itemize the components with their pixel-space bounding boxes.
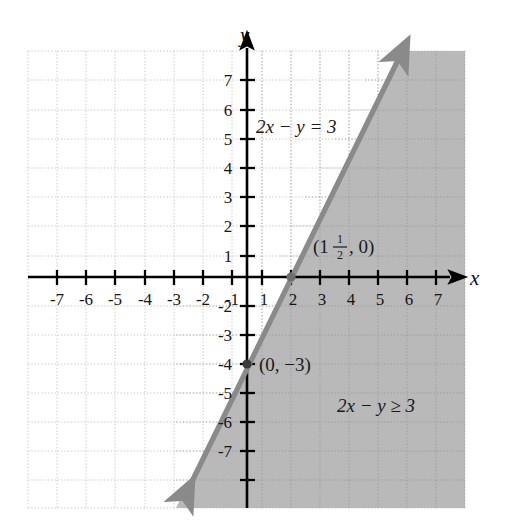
y-tick-label: -6 xyxy=(218,413,232,432)
y-tick-label: -3 xyxy=(218,326,232,345)
x-tick-label: -6 xyxy=(79,290,93,309)
y-tick-label: 6 xyxy=(224,101,233,120)
x-intercept-fraction-denominator: 2 xyxy=(337,248,343,262)
x-tick-label: 4 xyxy=(347,290,356,309)
inequality-label: 2x − y ≥ 3 xyxy=(337,395,415,416)
equation-label: 2x − y = 3 xyxy=(256,116,337,137)
x-tick-label: -7 xyxy=(50,290,65,309)
x-tick-label: -4 xyxy=(138,290,153,309)
x-tick-label: -3 xyxy=(167,290,181,309)
y-tick-label: 5 xyxy=(224,130,233,149)
x-tick-label: 6 xyxy=(405,290,414,309)
graph-figure: -7 -6 -5 -4 -3 -2 -1 1 2 3 4 5 6 7 7 6 5… xyxy=(0,0,508,526)
y-tick-label: 3 xyxy=(224,188,233,207)
x-tick-label: -5 xyxy=(108,290,122,309)
x-tick-label: 1 xyxy=(260,290,269,309)
x-axis-label: x xyxy=(469,266,480,290)
y-tick-label: -4 xyxy=(218,355,233,374)
y-tick-label: 4 xyxy=(224,159,233,178)
equation-text: 2x − y = 3 xyxy=(256,116,337,137)
point-y-intercept xyxy=(242,359,251,368)
y-intercept-label: (0, −3) xyxy=(259,354,311,376)
y-tick-label: 1 xyxy=(224,247,233,266)
x-tick-label: 7 xyxy=(434,290,443,309)
x-tick-label: 2 xyxy=(289,290,298,309)
y-tick-label: 7 xyxy=(224,71,233,90)
x-tick-label: 3 xyxy=(318,290,327,309)
x-tick-label: -2 xyxy=(196,290,210,309)
y-tick-label: -5 xyxy=(218,384,232,403)
y-tick-label: 2 xyxy=(224,217,233,236)
y-tick-label: -7 xyxy=(218,442,233,461)
x-intercept-fraction-numerator: 1 xyxy=(337,232,343,246)
y-tick-label: -2 xyxy=(218,297,232,316)
y-axis-label: y xyxy=(238,23,250,47)
x-intercept-close: , 0) xyxy=(349,236,374,258)
inequality-text: 2x − y ≥ 3 xyxy=(337,395,415,416)
point-x-intercept xyxy=(286,272,295,281)
x-intercept-open: (1 xyxy=(313,236,329,258)
coordinate-plane-svg: -7 -6 -5 -4 -3 -2 -1 1 2 3 4 5 6 7 7 6 5… xyxy=(0,0,508,526)
x-tick-label: 5 xyxy=(376,290,385,309)
